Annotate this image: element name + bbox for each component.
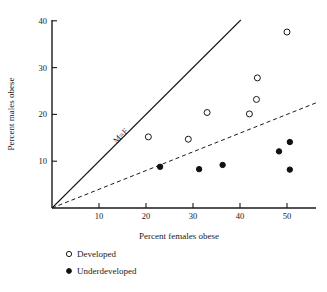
data-point [145, 134, 151, 140]
scatter-plot-figure: M=F 1020304050 10203040 Percent females … [0, 0, 327, 292]
data-point [253, 96, 259, 102]
x-tick-label: 30 [189, 211, 198, 221]
y-tick-label: 20 [39, 109, 48, 119]
data-point [185, 136, 191, 142]
data-point [284, 29, 290, 35]
legend-label-underdeveloped: Underdeveloped [77, 266, 137, 276]
trend-line [52, 103, 316, 208]
data-point [254, 75, 260, 81]
y-tick-label: 10 [39, 156, 48, 166]
equality-line [52, 20, 241, 208]
x-axis-ticks: 1020304050 [95, 203, 292, 221]
x-tick-label: 40 [236, 211, 245, 221]
legend-marker-developed [66, 251, 71, 256]
chart-legend: DevelopedUnderdeveloped [66, 249, 137, 276]
data-point [196, 166, 201, 171]
y-axis-ticks: 10203040 [39, 16, 58, 166]
data-point [287, 167, 292, 172]
y-axis-title: Percent males obese [6, 78, 16, 151]
data-point [220, 162, 225, 167]
series-underdeveloped-points [157, 139, 292, 172]
reference-lines [52, 20, 316, 208]
plot-area: M=F [52, 20, 316, 208]
data-point [157, 164, 162, 169]
chart-canvas: M=F 1020304050 10203040 Percent females … [0, 0, 327, 292]
y-tick-label: 30 [39, 63, 48, 73]
y-tick-label: 40 [39, 16, 48, 26]
data-point [204, 110, 210, 116]
data-point [287, 139, 292, 144]
data-point [276, 149, 281, 154]
legend-marker-underdeveloped [67, 269, 72, 274]
axes: 1020304050 10203040 [39, 16, 317, 221]
x-tick-label: 50 [283, 211, 292, 221]
x-axis-title: Percent females obese [139, 231, 219, 241]
equality-line-label: M=F [111, 126, 130, 145]
legend-label-developed: Developed [77, 249, 116, 259]
data-point [246, 111, 252, 117]
series-developed-points [145, 29, 290, 142]
x-tick-label: 20 [142, 211, 151, 221]
x-tick-label: 10 [95, 211, 104, 221]
